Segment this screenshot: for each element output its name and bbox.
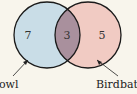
bowl-only-count: 7 xyxy=(25,29,32,42)
intersection-count: 3 xyxy=(64,29,71,42)
birdbath-label: Birdbat xyxy=(96,78,137,91)
birdbath-only-count: 5 xyxy=(99,29,106,42)
bowl-label: owl xyxy=(0,78,19,91)
